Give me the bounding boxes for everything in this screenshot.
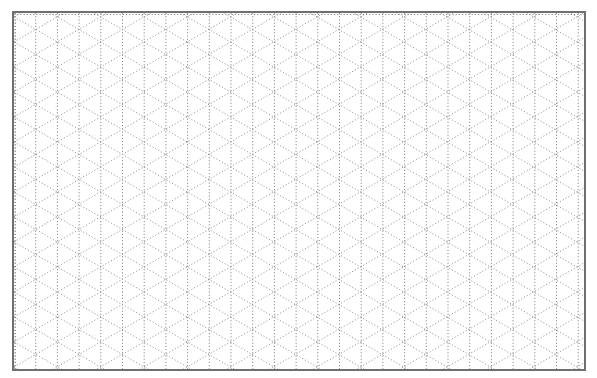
grid-line-diagonal-down [14,13,584,96]
grid-line-diagonal-down [14,67,584,369]
grid-line-diagonal-down [14,13,584,146]
grid-line-diagonal-up [14,13,584,67]
grid-line-diagonal-up [14,88,584,369]
grid-line-diagonal-down [14,13,584,196]
grid-line-diagonal-up [14,13,584,217]
grid-line-diagonal-up [14,313,584,369]
grid-line-diagonal-down [14,13,584,271]
grid-line-diagonal-down [14,13,584,71]
grid-line-diagonal-down [14,13,584,321]
grid-line-diagonal-up [14,13,584,192]
grid-line-diagonal-up [14,238,584,369]
grid-line-diagonal-up [14,13,584,92]
grid-line-diagonal-down [14,292,584,369]
grid-line-diagonal-up [14,13,584,42]
grid-line-diagonal-down [14,13,584,46]
grid-line-diagonal-down [14,13,584,171]
grid-line-diagonal-down [14,242,584,369]
grid-line-diagonal-down [14,13,584,296]
grid-line-diagonal-up [14,63,584,369]
grid-line-diagonal-down [14,117,584,369]
grid-line-diagonal-up [14,13,584,242]
grid-line-diagonal-up [14,13,584,142]
grid-line-diagonal-down [14,317,584,369]
grid-line-diagonal-up [14,13,584,167]
grid-line-diagonal-down [14,342,584,369]
grid-line-diagonal-up [14,13,584,317]
grid-line-diagonal-up [14,263,584,369]
grid-line-diagonal-up [14,13,584,292]
grid-line-diagonal-up [14,113,584,369]
grid-line-diagonal-down [14,367,584,369]
grid-line-diagonal-down [14,92,584,369]
grid-line-diagonal-down [14,17,584,346]
isometric-grid-pattern [14,13,584,369]
isometric-grid-sheet [12,11,586,371]
grid-line-diagonal-up [14,338,584,369]
grid-line-diagonal-up [14,163,584,369]
grid-line-diagonal-down [14,192,584,369]
grid-line-diagonal-down [14,13,584,246]
grid-line-diagonal-up [14,213,584,369]
grid-line-diagonal-down [14,217,584,369]
grid-line-diagonal-up [14,13,584,117]
grid-line-diagonal-up [14,13,584,342]
grid-line-diagonal-up [14,188,584,369]
grid-line-diagonal-down [14,267,584,369]
grid-line-diagonal-up [14,288,584,369]
grid-line-diagonal-down [14,167,584,369]
grid-line-diagonal-down [14,13,584,121]
grid-line-diagonal-up [14,38,584,367]
grid-line-diagonal-down [14,13,584,221]
grid-line-diagonal-up [14,138,584,369]
grid-line-diagonal-down [14,142,584,369]
grid-line-diagonal-up [14,363,584,369]
grid-line-diagonal-down [14,42,584,369]
grid-line-diagonal-up [14,13,584,267]
